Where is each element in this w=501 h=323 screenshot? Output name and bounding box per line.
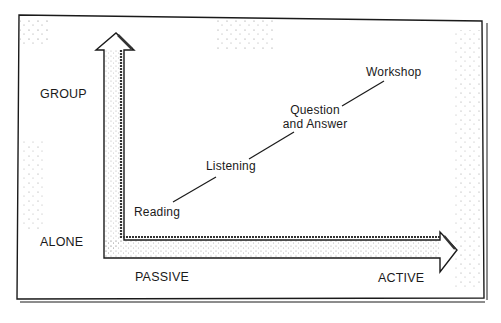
continuum-item-question-and-answer: Question and Answer [280,103,350,131]
x-axis-right-label: ACTIVE [378,271,424,285]
continuum-item-question-line1: Question [280,103,350,117]
continuum-item-question-line2: and Answer [280,117,350,131]
x-axis-left-label: PASSIVE [135,270,189,284]
continuum-item-workshop: Workshop [366,65,421,79]
y-axis-top-label: GROUP [40,87,87,101]
continuum-item-reading: Reading [134,205,180,219]
continuum-connectors [173,81,384,202]
learning-continuum-diagram: GROUP ALONE PASSIVE ACTIVE Reading Liste… [0,0,501,323]
continuum-item-listening: Listening [206,159,256,173]
y-axis-bottom-label: ALONE [40,235,83,249]
